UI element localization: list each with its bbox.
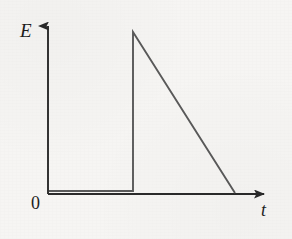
y-axis-label: E [20,21,32,40]
origin-label: 0 [31,194,40,212]
figure-root: E t 0 [0,0,292,239]
sawtooth-plot [0,0,292,239]
x-axis-label: t [261,201,266,219]
sawtooth-curve [49,32,235,193]
